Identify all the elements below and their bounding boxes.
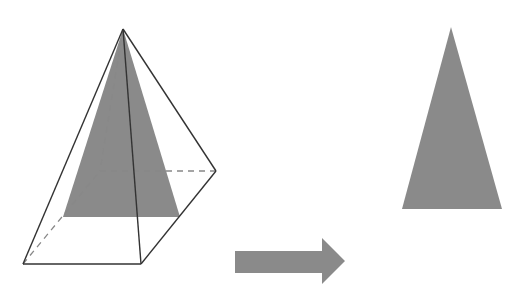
right-arrow-icon (235, 238, 345, 284)
diagram-svg (0, 0, 529, 300)
hidden-edge-back-left-front-left (23, 171, 100, 264)
diagram-canvas (0, 0, 529, 300)
cross-section-triangle (63, 29, 180, 217)
result-triangle (402, 27, 502, 209)
